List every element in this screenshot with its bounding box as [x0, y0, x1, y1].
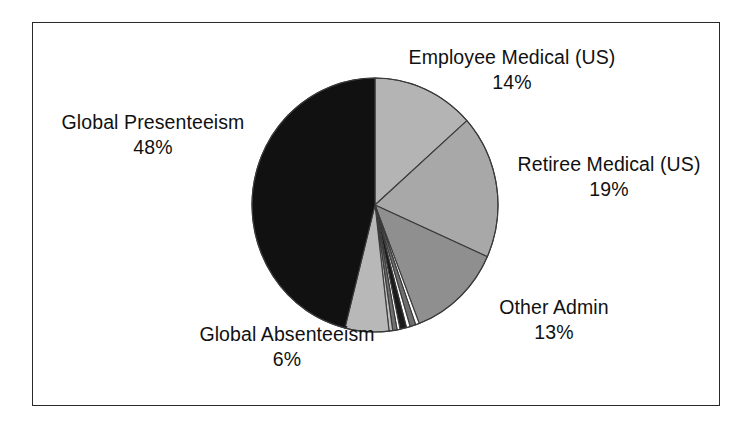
slice-label-percent: 19%: [476, 177, 742, 202]
slice-label-global-absenteeism: Global Absenteeism 6%: [154, 322, 420, 372]
slice-label-name: Other Admin: [448, 295, 660, 320]
slice-label-other-admin: Other Admin 13%: [448, 295, 660, 345]
slice-label-name: Employee Medical (US): [379, 45, 645, 70]
slice-label-percent: 6%: [154, 347, 420, 372]
slice-label-percent: 13%: [448, 320, 660, 345]
slice-label-percent: 48%: [22, 135, 284, 160]
slice-label-percent: 14%: [379, 70, 645, 95]
chart-figure: Employee Medical (US) 14% Retiree Medica…: [0, 0, 754, 431]
slice-label-global-presenteeism: Global Presenteeism 48%: [22, 110, 284, 160]
slice-label-name: Global Presenteeism: [22, 110, 284, 135]
pie-slice-group: [252, 78, 498, 332]
slice-label-employee-medical: Employee Medical (US) 14%: [379, 45, 645, 95]
slice-label-name: Global Absenteeism: [154, 322, 420, 347]
slice-label-retiree-medical: Retiree Medical (US) 19%: [476, 152, 742, 202]
slice-label-name: Retiree Medical (US): [476, 152, 742, 177]
